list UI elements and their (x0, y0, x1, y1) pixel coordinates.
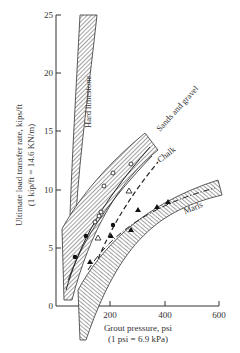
svg-text:5: 5 (49, 243, 54, 253)
svg-text:400: 400 (158, 310, 172, 320)
svg-text:0: 0 (49, 301, 54, 311)
x-tick-labels: 200 400 600 (103, 310, 226, 320)
chart: 25 20 15 10 5 0 200 400 600 Grout pressu… (0, 0, 240, 353)
chalk-label: Chalk (155, 144, 178, 165)
svg-text:15: 15 (44, 126, 54, 136)
hard-limestone-label: Hard limestone (83, 76, 93, 128)
sands-gravel-label: Sands and gravel (154, 83, 201, 133)
svg-text:600: 600 (212, 310, 226, 320)
svg-text:10: 10 (44, 185, 54, 195)
svg-text:25: 25 (44, 10, 54, 20)
y-ticks (56, 15, 61, 248)
svg-text:200: 200 (103, 310, 117, 320)
y-axis-title: Ultimate load transfer rate, kips/ft (14, 103, 24, 226)
x-axis-note: (1 psi = 6.9 kPa) (108, 334, 168, 344)
svg-text:20: 20 (44, 68, 54, 78)
y-tick-labels: 25 20 15 10 5 0 (44, 10, 54, 311)
x-axis-title: Grout pressure, psi (104, 323, 173, 333)
x-ticks (110, 301, 219, 306)
y-axis-note: (1 kip/ft = 14.6 KN/m) (26, 124, 36, 206)
